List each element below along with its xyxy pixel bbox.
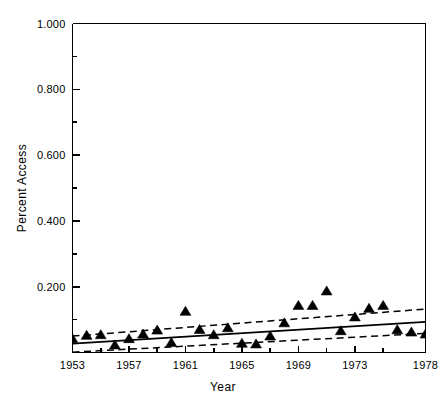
x-tick-label-2: 1961 — [173, 359, 198, 371]
y-tick-label-3: 0.800 — [37, 83, 66, 95]
x-tick-label-0: 1953 — [60, 359, 85, 371]
x-tick-label-4: 1969 — [286, 359, 311, 371]
x-tick-label-3: 1965 — [229, 359, 254, 371]
x-axis-title: Year — [210, 380, 236, 394]
chart-figure: 0.2000.4000.6000.8001.000 19531957196119… — [0, 0, 446, 405]
y-tick-label-4: 1.000 — [37, 18, 66, 30]
y-tick-label-0: 0.200 — [37, 281, 66, 293]
scatter-plot: 0.2000.4000.6000.8001.000 19531957196119… — [0, 0, 446, 405]
y-tick-label-1: 0.400 — [37, 215, 66, 227]
y-axis-title: Percent Access — [15, 144, 29, 232]
y-tick-label-2: 0.600 — [37, 149, 66, 161]
x-tick-label-1: 1957 — [116, 359, 141, 371]
x-tick-label-6: 1978 — [413, 359, 438, 371]
x-tick-label-5: 1973 — [342, 359, 367, 371]
